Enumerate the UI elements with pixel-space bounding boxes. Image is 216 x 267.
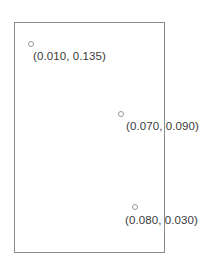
data-point-label-3: (0.080, 0.030) (125, 214, 198, 227)
data-point-marker-3 (132, 204, 138, 210)
data-point-label-1: (0.010, 0.135) (33, 50, 106, 63)
data-point-marker-1 (28, 41, 34, 47)
data-point-label-2: (0.070, 0.090) (126, 120, 199, 133)
data-point-marker-2 (118, 111, 124, 117)
